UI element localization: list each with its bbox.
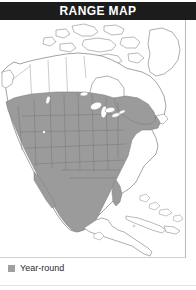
- page-title: RANGE MAP: [60, 5, 137, 17]
- header-bar: RANGE MAP: [0, 2, 196, 20]
- legend-label-year-round: Year-round: [20, 264, 64, 273]
- legend-swatch-year-round: [8, 265, 15, 272]
- map-legend: Year-round: [8, 264, 64, 273]
- north-america-map: [0, 20, 186, 258]
- range-map-card: RANGE MAP: [0, 0, 196, 290]
- footer-divider: [0, 285, 196, 286]
- map-frame: [0, 20, 186, 258]
